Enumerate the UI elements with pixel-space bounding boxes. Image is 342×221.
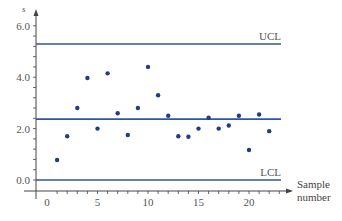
data-point [95,126,99,130]
data-point [166,114,170,118]
x-tick-label: 20 [244,196,256,208]
data-point [247,148,251,152]
x-axis: 05101520 [24,189,293,209]
data-point [156,93,160,97]
y-tick-label: 6.0 [16,20,30,32]
data-point [186,135,190,139]
x-tick-label: 10 [143,196,155,208]
control-lines: UCLLCL [36,30,281,180]
x-axis-title-line2: number [297,191,331,203]
y-tick-label: 2.0 [16,123,30,135]
data-point [65,134,69,138]
data-point [85,76,89,80]
x-tick-label: 15 [193,196,205,208]
data-point [75,106,79,110]
x-axis-title-line1: Sample [297,178,330,190]
data-point [217,126,221,130]
data-point [105,71,109,75]
data-point [267,129,271,133]
data-point [126,133,130,137]
data-point [176,134,180,138]
data-point [227,123,231,127]
data-points [55,65,272,162]
data-point [146,65,150,69]
data-point [55,158,59,162]
y-tick-label: 4.0 [16,71,30,83]
ucl-label: UCL [259,30,281,42]
y-axis-arrow-icon [34,9,39,16]
y-axis-title: s [22,4,26,14]
y-tick-label: 0.0 [16,174,30,186]
data-point [257,112,261,116]
data-point [206,116,210,120]
data-point [136,106,140,110]
y-axis: 0.02.04.06.0 [16,9,38,199]
x-tick-label: 5 [95,196,101,208]
lcl-label: LCL [260,166,281,178]
data-point [116,111,120,115]
data-point [196,126,200,130]
control-chart: 0.02.04.06.0 05101520 UCLLCL s Sample nu… [0,0,342,221]
data-point [237,114,241,118]
x-axis-arrow-icon [286,189,293,194]
x-tick-label: 0 [44,196,50,208]
